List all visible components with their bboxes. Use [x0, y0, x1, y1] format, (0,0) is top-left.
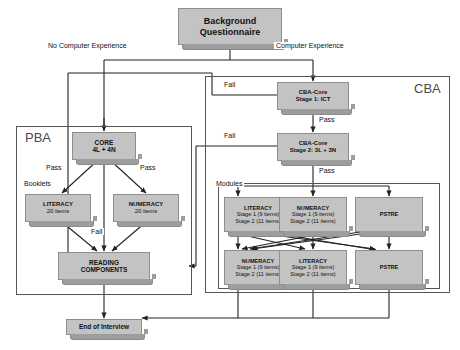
box-shadow	[283, 231, 350, 237]
cba2-line2: Stage 2: 3L + 3N	[290, 147, 336, 154]
box-shadow	[283, 284, 350, 290]
cba1-line1: CBA-Core	[299, 89, 328, 96]
box-shadow	[281, 109, 352, 115]
pbalit-line1: LITERACY	[43, 201, 73, 208]
label-fail-stage1: Fail	[222, 81, 237, 88]
pbacore-line2: 4L + 4N	[92, 146, 115, 153]
label-modules: Modules	[214, 180, 244, 187]
label-pass-stage1: Pass	[317, 116, 337, 123]
flowchart-canvas: PBA CBA Background Questionnaire CBA-Cor…	[0, 0, 460, 350]
box-shadow	[117, 221, 182, 227]
node-pba-literacy[interactable]: LITERACY 20 items	[25, 194, 91, 222]
node-cba-core-stage2[interactable]: CBA-Core Stage 2: 3L + 3N	[277, 133, 349, 161]
pbanum-line1: NUMERACY	[129, 201, 164, 208]
box-shadow	[70, 334, 145, 340]
label-booklets: Booklets	[22, 180, 53, 187]
bq-line2: Questionnaire	[200, 27, 261, 37]
pbanum-line2: 20 items	[135, 208, 158, 215]
node-pba-numeracy[interactable]: NUMERACY 20 items	[113, 194, 179, 222]
pba-frame-label: PBA	[23, 130, 53, 145]
m2num-line3: Stage 2 (11 items)	[235, 271, 280, 277]
node-reading-components[interactable]: READING COMPONENTS	[58, 252, 150, 280]
pbalit-line2: 20 items	[47, 208, 70, 215]
node-module-r1-numeracy[interactable]: NUMERACY Stage 1 (9 items) Stage 2 (11 i…	[279, 197, 347, 232]
label-no-computer-experience: No Computer Experience	[46, 42, 129, 49]
node-module-r2-pstre[interactable]: PSTRE	[355, 250, 423, 285]
node-module-r2-literacy[interactable]: LITERACY Stage 1 (9 items) Stage 2 (11 i…	[279, 250, 347, 285]
node-cba-core-stage1[interactable]: CBA-Core Stage 1: ICT	[277, 82, 349, 110]
m1lit-line3: Stage 2 (11 items)	[235, 218, 280, 224]
bq-line1: Background	[204, 16, 257, 26]
rc-line1: READING	[89, 259, 119, 266]
node-module-r1-pstre[interactable]: PSTRE	[355, 197, 423, 232]
cba1-line2: Stage 1: ICT	[296, 96, 331, 103]
cba-frame-label: CBA	[412, 81, 443, 96]
box-shadow	[281, 160, 352, 166]
cba2-line1: CBA-Core	[299, 140, 328, 147]
node-pba-core[interactable]: CORE 4L + 4N	[72, 132, 136, 160]
box-shadow	[359, 284, 426, 290]
node-background-questionnaire[interactable]: Background Questionnaire	[178, 8, 282, 45]
m1pstre-line1: PSTRE	[380, 211, 399, 217]
label-fail-stage2: Fail	[222, 132, 237, 139]
label-pba-pass-right: Pass	[138, 164, 158, 171]
rc-line2: COMPONENTS	[81, 266, 128, 273]
box-shadow	[359, 231, 426, 237]
m1num-line3: Stage 2 (11 items)	[290, 218, 335, 224]
m2pstre-line1: PSTRE	[380, 264, 399, 270]
node-end-of-interview[interactable]: End of Interview	[66, 319, 142, 335]
box-shadow	[182, 44, 285, 50]
pbacore-line1: CORE	[95, 139, 114, 146]
label-computer-experience: Computer Experience	[274, 42, 346, 49]
label-pba-pass-left: Pass	[44, 164, 64, 171]
box-shadow	[29, 221, 94, 227]
m2lit-line3: Stage 2 (11 items)	[290, 271, 335, 277]
box-shadow	[76, 159, 139, 165]
eoi-line1: End of Interview	[79, 323, 129, 330]
label-pass-stage2: Pass	[317, 167, 337, 174]
label-pba-fail: Fail	[89, 228, 104, 235]
box-shadow	[62, 279, 153, 285]
